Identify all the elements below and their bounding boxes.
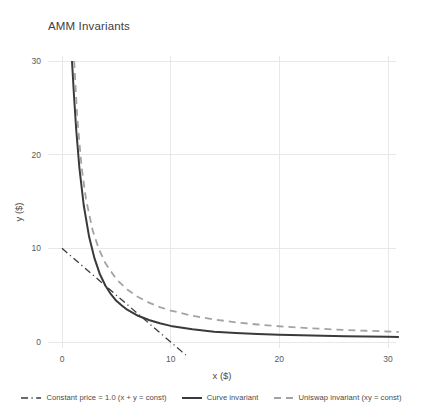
x-axis-title: x ($): [213, 370, 232, 381]
legend-label: Uniswap invariant (xy = const): [299, 393, 402, 402]
y-tick-label: 30: [32, 56, 42, 66]
chart-figure: AMM Invariants 0102030 0102030 x ($) y (…: [0, 0, 422, 412]
y-tick-label: 20: [32, 150, 42, 160]
legend-label: Curve invariant: [207, 393, 259, 402]
y-tick-labels: 0102030: [32, 56, 42, 347]
legend-label: Constant price = 1.0 (x + y = const): [46, 393, 166, 402]
dashed-line-swatch: [273, 394, 295, 402]
x-tick-label: 20: [275, 354, 285, 364]
y-tick-label: 0: [36, 337, 41, 347]
x-tick-label: 30: [383, 354, 393, 364]
y-axis-title: y ($): [13, 203, 24, 222]
x-tick-label: 10: [166, 354, 176, 364]
y-tick-label: 10: [32, 243, 42, 253]
solid-line-swatch: [181, 394, 203, 402]
legend-entry-1[interactable]: Constant price = 1.0 (x + y = const): [20, 393, 166, 402]
dashdot-line-swatch: [20, 394, 42, 402]
legend-entry-2[interactable]: Curve invariant: [181, 393, 259, 402]
legend-entry-3[interactable]: Uniswap invariant (xy = const): [273, 393, 402, 402]
x-tick-labels: 0102030: [60, 354, 393, 364]
plot-background: [48, 56, 396, 348]
plot-area: 0102030 0102030 x ($) y ($): [0, 0, 422, 392]
chart-legend: Constant price = 1.0 (x + y = const)Curv…: [0, 393, 422, 402]
x-tick-label: 0: [60, 354, 65, 364]
